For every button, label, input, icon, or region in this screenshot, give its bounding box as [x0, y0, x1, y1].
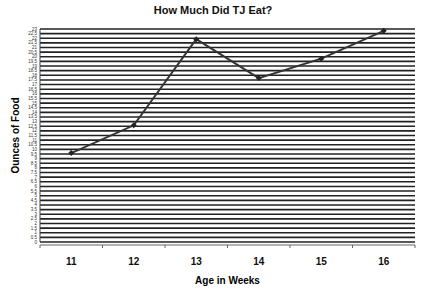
- svg-text:8.5: 8.5: [31, 161, 38, 166]
- svg-text:5.5: 5.5: [31, 189, 38, 194]
- svg-text:15: 15: [316, 256, 328, 267]
- svg-text:22.5: 22.5: [28, 31, 37, 36]
- svg-text:13.5: 13.5: [28, 114, 37, 119]
- svg-text:14: 14: [253, 256, 265, 267]
- svg-text:20.5: 20.5: [28, 50, 37, 55]
- x-axis-label: Age in Weeks: [40, 275, 415, 286]
- svg-text:21: 21: [32, 45, 38, 50]
- svg-text:12.5: 12.5: [28, 124, 37, 129]
- svg-text:9: 9: [34, 156, 37, 161]
- svg-text:16.5: 16.5: [28, 87, 37, 92]
- svg-text:15.5: 15.5: [28, 96, 37, 101]
- svg-text:18: 18: [32, 73, 38, 78]
- svg-text:8: 8: [34, 165, 37, 170]
- svg-text:10.5: 10.5: [28, 142, 37, 147]
- svg-text:7: 7: [34, 175, 37, 180]
- data-point-marker: [68, 150, 74, 156]
- svg-text:17: 17: [32, 82, 38, 87]
- svg-text:5: 5: [34, 193, 37, 198]
- gridlines: [40, 29, 415, 242]
- svg-text:9.5: 9.5: [31, 152, 38, 157]
- svg-text:13: 13: [191, 256, 203, 267]
- svg-text:18.5: 18.5: [28, 68, 37, 73]
- svg-text:3.5: 3.5: [31, 207, 38, 212]
- svg-text:4.5: 4.5: [31, 198, 38, 203]
- svg-text:19: 19: [32, 64, 38, 69]
- svg-text:20: 20: [32, 54, 38, 59]
- svg-text:1: 1: [34, 230, 37, 235]
- y-axis-label: Ounces of Food: [10, 81, 21, 191]
- svg-text:16: 16: [378, 256, 390, 267]
- y-tick-labels: 00.511.522.533.544.555.566.577.588.599.5…: [28, 27, 37, 245]
- svg-text:21.5: 21.5: [28, 40, 37, 45]
- svg-text:0: 0: [34, 240, 37, 245]
- svg-text:2: 2: [34, 221, 37, 226]
- svg-text:4: 4: [34, 202, 37, 207]
- svg-text:11.5: 11.5: [29, 133, 38, 138]
- svg-text:3: 3: [34, 212, 37, 217]
- line-chart: 00.511.522.533.544.555.566.577.588.599.5…: [0, 0, 426, 297]
- svg-text:23: 23: [32, 27, 38, 32]
- svg-text:11: 11: [66, 256, 77, 267]
- x-tick-labels: 111213141516: [40, 245, 415, 267]
- svg-text:19.5: 19.5: [28, 59, 37, 64]
- svg-text:11: 11: [32, 138, 37, 143]
- svg-text:1.5: 1.5: [31, 226, 38, 231]
- svg-text:2.5: 2.5: [31, 216, 38, 221]
- svg-text:17.5: 17.5: [28, 77, 37, 82]
- svg-text:14.5: 14.5: [28, 105, 37, 110]
- svg-text:7.5: 7.5: [31, 170, 38, 175]
- svg-text:12: 12: [32, 128, 38, 133]
- svg-text:13: 13: [32, 119, 38, 124]
- svg-text:16: 16: [32, 91, 38, 96]
- svg-text:10: 10: [32, 147, 38, 152]
- svg-text:22: 22: [32, 36, 38, 41]
- svg-text:0.5: 0.5: [31, 235, 38, 240]
- svg-text:6.5: 6.5: [31, 179, 38, 184]
- svg-text:15: 15: [32, 101, 38, 106]
- svg-text:6: 6: [34, 184, 37, 189]
- svg-text:12: 12: [128, 256, 140, 267]
- svg-text:14: 14: [32, 110, 38, 115]
